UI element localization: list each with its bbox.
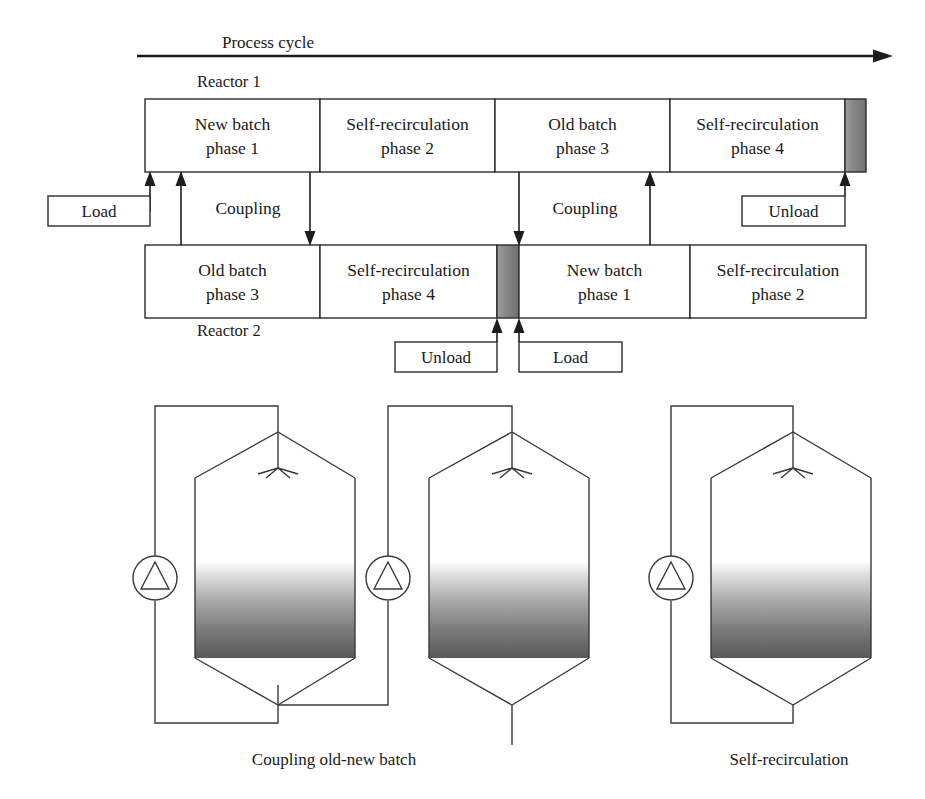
vessel-c-cone-bottom xyxy=(711,658,871,705)
figure-root: Process cycle Reactor 1 New batch phase … xyxy=(0,0,925,799)
vessel-c-group xyxy=(649,406,871,723)
reactor2-phase-2-line2: phase 4 xyxy=(382,284,435,304)
process-cycle-axis-group: Process cycle xyxy=(137,33,893,63)
reactor1-to-reactor2-arrowhead-left xyxy=(305,231,316,246)
reactor1-phase-cell-3 xyxy=(495,99,670,172)
schematic-caption-left: Coupling old-new batch xyxy=(252,750,417,769)
unload-box-bottom-label: Unload xyxy=(421,348,472,367)
reactor1-phase-4-line1: Self-recirculation xyxy=(696,114,819,134)
reactor2-phase-cell-1 xyxy=(145,245,320,318)
process-cycle-diagram: Process cycle Reactor 1 New batch phase … xyxy=(0,0,925,799)
reactor2-phase-4-line1: Self-recirculation xyxy=(717,260,840,280)
reactor-1-label: Reactor 1 xyxy=(197,72,261,91)
reactor1-phase-3-line2: phase 3 xyxy=(556,138,609,158)
reactor2-phase-2-line1: Self-recirculation xyxy=(347,260,470,280)
reactor2-phase-1-line2: phase 3 xyxy=(206,284,259,304)
vessel-b-spray-icon xyxy=(492,468,532,478)
vessel-b-pump-triangle-icon xyxy=(374,562,402,589)
unload-top-arrowhead xyxy=(840,171,851,186)
vessel-a-group xyxy=(133,406,355,723)
vessel-c-cone-top xyxy=(711,432,871,478)
reactor-1-timeline: New batch phase 1 Self-recirculation pha… xyxy=(145,99,866,172)
coupling-label-right: Coupling xyxy=(552,198,617,218)
reactor1-phase-cell-2 xyxy=(320,99,495,172)
reactor1-phase-1-line2: phase 1 xyxy=(206,138,259,158)
reactor2-phase-cell-4 xyxy=(690,245,866,318)
reactor-2-label: Reactor 2 xyxy=(197,321,261,340)
load-box-bottom-label: Load xyxy=(553,348,588,367)
vessel-a-pump-triangle-icon xyxy=(141,562,169,589)
reactor2-phase-3-line1: New batch xyxy=(567,260,643,280)
reactor1-phase-2-line1: Self-recirculation xyxy=(346,114,469,134)
reactor2-phase-cell-2 xyxy=(320,245,497,318)
reactor2-to-reactor1-arrowhead-left xyxy=(176,171,187,186)
vessel-b-cone-bottom xyxy=(429,658,589,705)
reactor2-phase-cell-3 xyxy=(519,245,690,318)
vessel-c-spray-icon xyxy=(773,468,813,478)
reactor1-unload-gradient-block xyxy=(845,99,866,172)
vessel-a-liquid xyxy=(195,563,355,658)
unload-box-top-label: Unload xyxy=(768,202,819,221)
reactor1-to-reactor2-arrowhead-right xyxy=(514,231,525,246)
reactor1-phase-4-line2: phase 4 xyxy=(731,138,784,158)
reactor2-to-reactor1-arrowhead-right xyxy=(645,171,656,186)
vessel-a-spray-icon xyxy=(258,468,298,478)
reactor1-phase-cell-1 xyxy=(145,99,320,172)
reactor2-phase-1-line1: Old batch xyxy=(198,260,267,280)
vessel-c-liquid xyxy=(711,563,871,658)
vessel-b-liquid xyxy=(429,563,589,658)
reactor1-phase-1-line1: New batch xyxy=(195,114,271,134)
unload-bottom-arrowhead xyxy=(492,318,503,333)
vessel-c-pump-triangle-icon xyxy=(657,562,685,589)
coupling-label-left: Coupling xyxy=(215,198,280,218)
reactor2-unload-gradient-block xyxy=(497,245,519,318)
process-cycle-arrowhead xyxy=(873,50,893,63)
load-box-top-label: Load xyxy=(82,202,117,221)
reactor1-phase-3-line1: Old batch xyxy=(548,114,617,134)
reactor2-phase-4-line2: phase 2 xyxy=(752,284,805,304)
reactor2-phase-3-line2: phase 1 xyxy=(578,284,631,304)
load-bottom-arrowhead xyxy=(514,318,525,333)
schematic-caption-right: Self-recirculation xyxy=(730,750,849,769)
reactor-2-timeline: Old batch phase 3 Self-recirculation pha… xyxy=(145,245,866,318)
reactor1-phase-cell-4 xyxy=(670,99,845,172)
reactor1-phase-2-line2: phase 2 xyxy=(381,138,434,158)
vessel-a-cone-bottom xyxy=(195,658,355,705)
load-top-arrowhead xyxy=(145,171,156,186)
process-cycle-title: Process cycle xyxy=(222,33,314,52)
